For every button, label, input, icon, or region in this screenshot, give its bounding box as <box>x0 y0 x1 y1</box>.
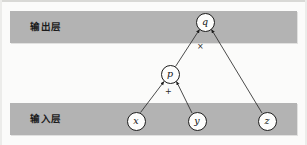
edge-p-to-q <box>176 30 200 67</box>
node-q-label: q <box>202 17 208 27</box>
node-z-label: z <box>264 116 269 126</box>
node-z[interactable]: z <box>258 112 277 131</box>
operator-multiply-label: × <box>197 43 204 51</box>
node-y-label: y <box>194 116 199 126</box>
node-q[interactable]: q <box>196 13 215 32</box>
node-x-label: x <box>133 116 138 126</box>
node-y[interactable]: y <box>188 112 207 131</box>
node-p-label: p <box>167 69 173 79</box>
node-p[interactable]: p <box>161 65 180 84</box>
node-x[interactable]: x <box>127 112 146 131</box>
edge-y-to-p <box>177 82 193 114</box>
operator-add-label: + <box>165 88 172 96</box>
edge-x-to-p <box>141 82 165 113</box>
edge-z-to-q <box>212 30 263 114</box>
figure-canvas: 输出层 输入层 q p x y z × + <box>0 0 307 145</box>
